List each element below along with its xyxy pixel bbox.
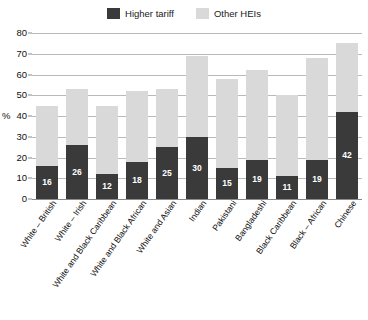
x-axis-label-text: White and Black African xyxy=(89,199,148,278)
y-tick-label-50: 50 xyxy=(16,91,27,101)
y-axis-title: % xyxy=(2,111,10,121)
legend-label: Other HEIs xyxy=(214,9,261,19)
y-tick-label-0: 0 xyxy=(22,194,27,204)
bar-chart: Higher tariffOther HEIs 010203040%506070… xyxy=(0,0,368,320)
bar-segment-other-heis[interactable] xyxy=(246,70,268,159)
y-tick-label-10: 10 xyxy=(16,174,27,184)
bar-value-label: 15 xyxy=(222,179,231,188)
bar-segment-other-heis[interactable] xyxy=(336,43,358,111)
bar-group[interactable]: 16 xyxy=(36,106,58,199)
bar-value-label: 11 xyxy=(282,183,291,192)
x-axis-label-text: Indian xyxy=(187,199,207,223)
legend-swatch-higher-tariff xyxy=(107,8,120,19)
bar-group[interactable]: 15 xyxy=(216,79,238,199)
y-tick-label-80: 80 xyxy=(16,28,27,38)
bar-value-label: 16 xyxy=(42,178,51,187)
legend-item-1[interactable]: Higher tariff xyxy=(107,8,174,19)
x-axis-labels: White – BritishWhite – IrishWhite and Bl… xyxy=(32,199,362,317)
x-axis-label-text: White – British xyxy=(19,199,58,249)
x-axis-label-text: Pakistani xyxy=(211,199,238,232)
y-tick-label-30: 30 xyxy=(16,132,27,142)
y-tick-label-70: 70 xyxy=(16,49,27,59)
bar-value-label: 12 xyxy=(102,182,111,191)
legend-swatch-other-heis xyxy=(196,8,209,19)
chart-legend: Higher tariffOther HEIs xyxy=(0,8,368,19)
y-tick-label-20: 20 xyxy=(16,153,27,163)
bar-segment-other-heis[interactable] xyxy=(66,89,88,145)
bar-segment-other-heis[interactable] xyxy=(306,58,328,160)
legend-label: Higher tariff xyxy=(125,9,174,19)
bar-segment-other-heis[interactable] xyxy=(186,56,208,137)
y-tick-label-60: 60 xyxy=(16,70,27,80)
y-tick-label-40: 40 xyxy=(16,111,27,121)
x-axis-label-text: Chinese xyxy=(333,199,358,230)
bar-segment-other-heis[interactable] xyxy=(36,106,58,166)
bar-segment-other-heis[interactable] xyxy=(216,79,238,168)
legend-item-2[interactable]: Other HEIs xyxy=(196,8,261,19)
